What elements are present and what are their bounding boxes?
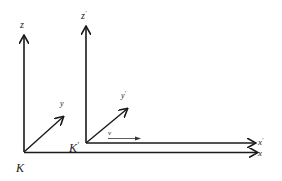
y-axis-label: y — [59, 99, 64, 108]
reference-frames-diagram: z y x K z' y' x' K' v — [0, 0, 282, 181]
y-prime-axis — [86, 109, 127, 143]
x-axis-label: x — [257, 148, 262, 158]
frame-k: z y x K — [15, 19, 262, 175]
velocity-label: v — [108, 129, 112, 137]
y-prime-label: y' — [120, 90, 127, 100]
x-prime-label: x' — [257, 137, 264, 147]
frame-k-prime: z' y' x' K' — [68, 10, 264, 155]
z-axis-label: z — [19, 19, 24, 30]
y-axis — [24, 117, 63, 152]
z-prime-label: z' — [80, 10, 87, 21]
velocity-indicator: v — [108, 129, 140, 139]
frame-k-label: K — [15, 161, 25, 175]
